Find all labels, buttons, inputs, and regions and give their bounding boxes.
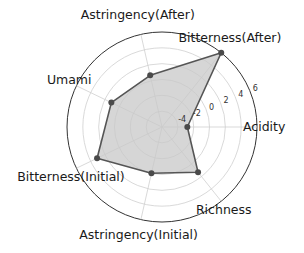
- data-point-marker: [195, 169, 201, 175]
- data-point-marker: [148, 170, 154, 176]
- data-point-marker: [108, 100, 114, 106]
- data-series: [94, 50, 224, 177]
- data-point-marker: [218, 50, 224, 56]
- axis-label-astringencyinitial: Astringency(Initial): [79, 227, 198, 242]
- axis-label-astringencyafter: Astringency(After): [81, 7, 195, 22]
- radial-tick-label: -2: [193, 109, 201, 118]
- data-point-marker: [147, 72, 153, 78]
- data-point-marker: [184, 124, 190, 130]
- axis-label-acidity: Acidity: [243, 119, 286, 134]
- series-area: [97, 53, 221, 174]
- radial-tick-label: -4: [178, 115, 186, 124]
- axis-label-bitternessinitial: Bitterness(Initial): [17, 169, 124, 184]
- radial-tick-label: 6: [253, 84, 258, 93]
- axis-label-richness: Richness: [196, 202, 252, 217]
- radar-chart-canvas: -4-20246 AcidityBitterness(After)Astring…: [0, 0, 304, 253]
- axis-label-umami: Umami: [47, 72, 92, 87]
- radial-tick-label: 2: [224, 96, 229, 105]
- radial-tick-label: 0: [209, 103, 214, 112]
- radar-chart: -4-20246 AcidityBitterness(After)Astring…: [0, 0, 304, 253]
- radial-tick-label: 4: [238, 90, 243, 99]
- axis-label-bitternessafter: Bitterness(After): [179, 30, 282, 45]
- data-point-marker: [94, 155, 100, 161]
